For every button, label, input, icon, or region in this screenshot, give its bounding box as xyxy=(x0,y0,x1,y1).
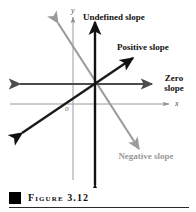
origin-label: 0 xyxy=(65,105,69,113)
positive-slope-line xyxy=(22,58,133,133)
y-axis-label: y xyxy=(71,6,75,15)
x-axis-label: x xyxy=(175,99,179,108)
figure-number: Figure 3.12 xyxy=(28,192,89,203)
zero-slope-label: Zero slope xyxy=(155,74,193,93)
figure-container: Undefined slope Positive slope Zero slop… xyxy=(0,0,196,212)
slope-diagram: Undefined slope Positive slope Zero slop… xyxy=(0,0,196,188)
figure-caption: Figure 3.12 xyxy=(0,188,196,212)
negative-slope-label: Negative slope xyxy=(117,152,175,162)
caption-divider xyxy=(9,207,189,208)
undefined-slope-label: Undefined slope xyxy=(83,13,145,23)
positive-slope-label: Positive slope xyxy=(117,43,169,53)
caption-square-icon xyxy=(9,192,21,204)
